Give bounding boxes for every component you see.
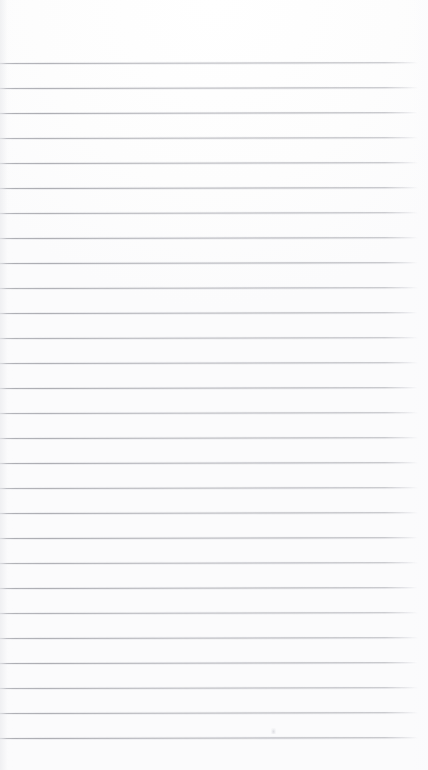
rule-line xyxy=(0,637,418,639)
rule-line xyxy=(0,737,418,739)
rule-line xyxy=(0,287,418,289)
rule-line xyxy=(0,237,418,239)
ruled-lines-group xyxy=(0,0,428,770)
rule-line xyxy=(0,112,418,114)
rule-line xyxy=(0,612,418,614)
rule-line xyxy=(0,487,418,489)
rule-line xyxy=(0,512,418,514)
rule-line xyxy=(0,687,418,689)
rule-line xyxy=(0,412,418,414)
rule-line xyxy=(0,62,418,64)
rule-line xyxy=(0,462,418,464)
rule-line xyxy=(0,562,418,564)
rule-line xyxy=(0,87,418,89)
rule-line xyxy=(0,212,418,214)
rule-line xyxy=(0,387,418,389)
rule-line xyxy=(0,662,418,664)
rule-line xyxy=(0,437,418,439)
rule-line xyxy=(0,137,418,139)
rule-line xyxy=(0,337,418,339)
rule-line xyxy=(0,162,418,164)
rule-line xyxy=(0,587,418,589)
rule-line xyxy=(0,312,418,314)
rule-line xyxy=(0,262,418,264)
rule-line xyxy=(0,712,418,714)
rule-line xyxy=(0,187,418,189)
rule-line xyxy=(0,362,418,364)
notepad-page xyxy=(0,0,428,770)
rule-line xyxy=(0,537,418,539)
